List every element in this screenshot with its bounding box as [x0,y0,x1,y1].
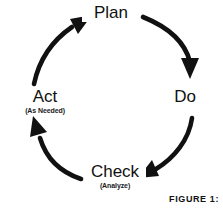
arrow-check-to-act [30,116,81,179]
cycle-node-check-subtitle: (Analyze) [84,182,146,190]
arrow-act-to-plan [34,15,92,84]
cycle-node-act: Act (As Needed) [14,88,76,115]
curved-arrow-icon [40,138,81,179]
curved-arrow-icon [143,17,190,62]
curved-arrow-icon [156,118,192,169]
figure-caption: FIGURE 1: [169,194,219,204]
cycle-node-check-label: Check [84,163,146,181]
pdca-cycle-diagram: Plan Do Check (Analyze) Act (As Needed) … [0,0,223,208]
curved-arrow-icon [34,27,72,84]
cycle-node-plan: Plan [82,4,140,22]
cycle-node-do-label: Do [166,88,204,106]
cycle-node-act-label: Act [14,88,76,106]
cycle-node-act-subtitle: (As Needed) [14,107,76,115]
arrow-do-to-check [138,118,192,178]
arrowhead-up-left-icon [30,116,47,137]
cycle-node-check: Check (Analyze) [84,163,146,190]
arrow-plan-to-do [143,17,199,79]
arrowhead-down-icon [181,58,199,79]
cycle-node-plan-label: Plan [82,4,140,22]
cycle-node-do: Do [166,88,204,106]
